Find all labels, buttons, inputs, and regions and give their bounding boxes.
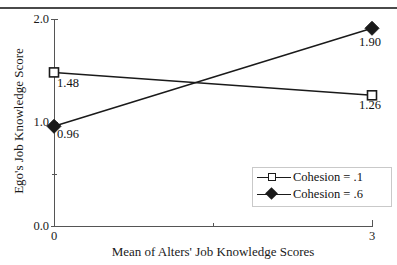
- data-label-1.26: 1.26: [359, 99, 381, 112]
- legend-entry-cohesion-0.6: Cohesion = .6: [257, 186, 363, 203]
- data-label-1.90: 1.90: [359, 36, 381, 49]
- legend-label-cohesion-0.6: Cohesion = .6: [291, 187, 363, 202]
- legend-key-filled-diamond-icon: [257, 188, 291, 202]
- marker-filled-diamond-right: [365, 21, 379, 35]
- legend-entry-cohesion-0.1: Cohesion = .1: [257, 169, 363, 186]
- series-cohesion-0.1-line: [54, 72, 372, 95]
- series-cohesion-0.6-line: [54, 28, 372, 126]
- legend-label-cohesion-0.1: Cohesion = .1: [291, 170, 363, 185]
- chart-legend: Cohesion = .1 Cohesion = .6: [252, 167, 392, 207]
- data-label-1.48: 1.48: [57, 77, 79, 90]
- legend-key-open-square-icon: [257, 171, 291, 185]
- data-label-0.96: 0.96: [57, 128, 79, 141]
- figure-container: 2.0 1.0 0.0 0 3 Ego's Job Knowledge Scor…: [0, 0, 397, 265]
